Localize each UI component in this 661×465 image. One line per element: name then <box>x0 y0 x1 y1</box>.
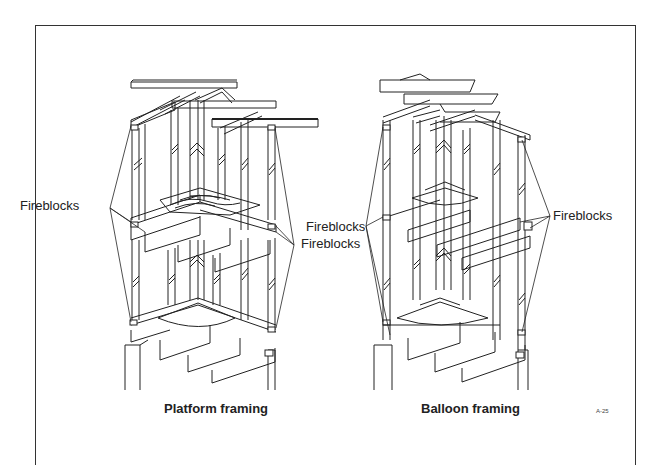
platform-framing-drawing <box>125 80 318 390</box>
balloon-fireblocks-right-label: Fireblocks <box>553 208 612 223</box>
platform-fireblocks-left-label: Fireblocks <box>20 198 79 213</box>
platform-right-leader-lines <box>275 128 294 328</box>
platform-framing-caption: Platform framing <box>164 401 268 416</box>
platform-fireblocks-right-label: Fireblocks <box>301 236 360 251</box>
balloon-framing-caption: Balloon framing <box>421 401 520 416</box>
platform-left-leader-lines <box>110 126 145 322</box>
figure-number: A-25 <box>596 408 609 414</box>
balloon-framing-drawing <box>374 74 532 390</box>
balloon-left-leader-lines <box>366 127 390 335</box>
balloon-fireblocks-left-label: Fireblocks <box>306 219 365 234</box>
